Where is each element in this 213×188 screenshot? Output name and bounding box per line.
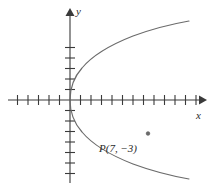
parabola-figure: y x P(7, −3)	[0, 0, 213, 188]
graph-canvas	[0, 0, 213, 188]
point-p-label: P(7, −3)	[99, 143, 137, 154]
x-axis-group	[8, 95, 207, 105]
x-axis-arrow-icon	[199, 96, 207, 105]
y-axis-label: y	[76, 6, 81, 17]
point-p-marker	[146, 132, 150, 136]
parabola-lower-branch	[70, 100, 189, 179]
y-axis-arrow-icon	[66, 8, 75, 16]
parabola-upper-branch	[70, 21, 189, 100]
x-axis-label: x	[196, 110, 201, 121]
